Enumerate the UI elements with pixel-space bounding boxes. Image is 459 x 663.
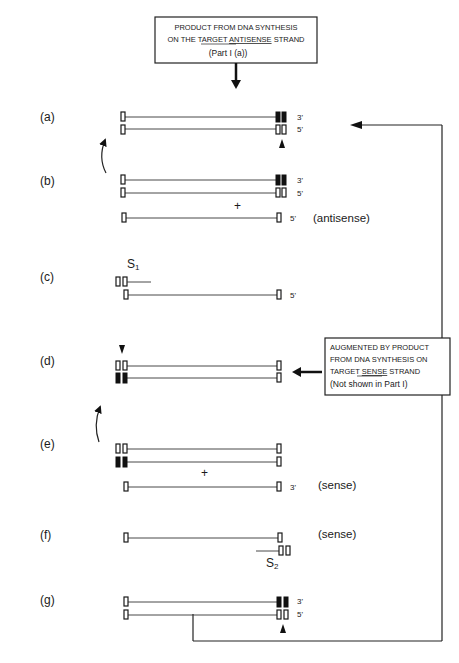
step-c-5prime: 5' (290, 291, 296, 300)
side-box-line-3: TARGET SENSE STRAND (330, 367, 421, 376)
left-arrow-icon (292, 367, 301, 377)
step-g-3prime: 3' (297, 597, 303, 606)
step-b-plus: + (234, 199, 241, 213)
step-a-5prime: 5' (297, 125, 303, 134)
step-b-label: (b) (40, 174, 55, 188)
side-box-line-2: FROM DNA SYNTHESIS ON (330, 355, 428, 364)
step-g-cleavage-arrow-icon (280, 624, 286, 633)
curved-cycle-arrow-icon-2 (96, 407, 100, 442)
step-g-label: (g) (40, 593, 55, 607)
step-b-5prime: 5' (297, 189, 303, 198)
step-g-duplex (124, 597, 288, 619)
step-e-3prime: 3' (290, 483, 296, 492)
step-b-strand-5prime: 5' (290, 214, 296, 223)
cleavage-site-arrow-icon (279, 139, 285, 148)
step-a-label: (a) (40, 110, 55, 124)
side-box-line-4: (Not shown in Part I) (330, 379, 408, 389)
curved-cycle-arrow-icon (102, 140, 106, 173)
primer-s2 (256, 546, 290, 555)
step-b-duplex (121, 175, 286, 197)
step-f-template-strand (124, 533, 282, 542)
antisense-emphasis: ANTISENSE (229, 35, 272, 44)
loop-arrowhead-icon (350, 121, 362, 129)
step-a-duplex (121, 112, 286, 134)
top-box-line-2: ON THE TARGET ANTISENSE STRAND (168, 35, 306, 44)
side-caption-box: AUGMENTED BY PRODUCT FROM DNA SYNTHESIS … (325, 338, 450, 395)
step-a-3prime: 3' (297, 113, 303, 122)
step-g-5prime: 5' (297, 610, 303, 619)
side-box-line-1: AUGMENTED BY PRODUCT (330, 343, 429, 352)
primer-s1 (116, 277, 151, 286)
step-d-label: (d) (40, 354, 55, 368)
step-d-duplex (116, 361, 281, 383)
top-caption-box: PRODUCT FROM DNA SYNTHESIS ON THE TARGET… (155, 17, 317, 63)
primer-s2-label: S2 (266, 556, 279, 571)
top-box-line-3: (Part I (a)) (209, 48, 248, 58)
step-e-single-strand (124, 482, 281, 491)
step-f-label: (f) (40, 528, 51, 542)
step-d-cleavage-arrow-icon (119, 345, 125, 354)
step-e-label: (e) (40, 437, 55, 451)
sense-label-f: (sense) (318, 528, 357, 540)
top-box-line-1: PRODUCT FROM DNA SYNTHESIS (174, 23, 297, 32)
sense-label-e: (sense) (318, 479, 357, 491)
step-b-single-strand (122, 213, 281, 222)
step-c-label: (c) (40, 270, 54, 284)
pcr-amplification-diagram: PRODUCT FROM DNA SYNTHESIS ON THE TARGET… (0, 0, 459, 663)
step-b-3prime: 3' (297, 176, 303, 185)
step-e-duplex (116, 444, 281, 467)
antisense-label: (antisense) (313, 212, 370, 224)
step-e-plus: + (201, 466, 208, 480)
down-arrow-icon (231, 80, 241, 89)
primer-s1-label: S1 (127, 257, 140, 272)
step-c-template-strand (124, 290, 281, 299)
sense-emphasis: SENSE (362, 367, 387, 376)
